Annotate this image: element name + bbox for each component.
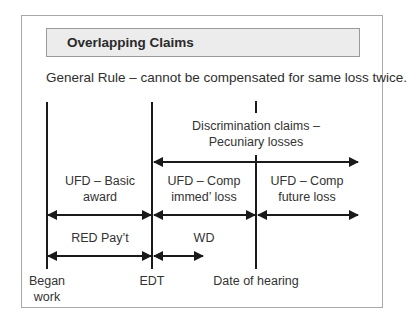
discrimination-label-line2: Pecuniary losses	[180, 134, 332, 150]
discrimination-label-line1: Discrimination claims –	[180, 118, 332, 134]
wd-label-line1: WD	[159, 230, 249, 246]
basic-award-label: UFD – Basic award	[55, 173, 145, 205]
date-of-hearing-label-line1: Date of hearing	[206, 273, 306, 289]
red-pay-label: RED Pay’t	[55, 230, 145, 246]
date-of-hearing-label: Date of hearing	[206, 273, 306, 289]
began-work-label-line1: Began	[22, 273, 72, 289]
basic-award-label-line2: award	[55, 189, 145, 205]
red-pay-label-line1: RED Pay’t	[55, 230, 145, 246]
comp-immediate-label: UFD – Comp immed’ loss	[159, 173, 249, 205]
wd-label: WD	[159, 230, 249, 246]
comp-future-label-line2: future loss	[262, 189, 352, 205]
edt-label-line1: EDT	[132, 273, 172, 289]
began-work-label-line2: work	[22, 289, 72, 305]
comp-future-label: UFD – Comp future loss	[262, 173, 352, 205]
edt-label: EDT	[132, 273, 172, 289]
comp-immediate-label-line1: UFD – Comp	[159, 173, 249, 189]
comp-future-label-line1: UFD – Comp	[262, 173, 352, 189]
began-work-label: Began work	[22, 273, 72, 305]
comp-immediate-label-line2: immed’ loss	[159, 189, 249, 205]
discrimination-label: Discrimination claims – Pecuniary losses	[180, 118, 332, 150]
basic-award-label-line1: UFD – Basic	[55, 173, 145, 189]
